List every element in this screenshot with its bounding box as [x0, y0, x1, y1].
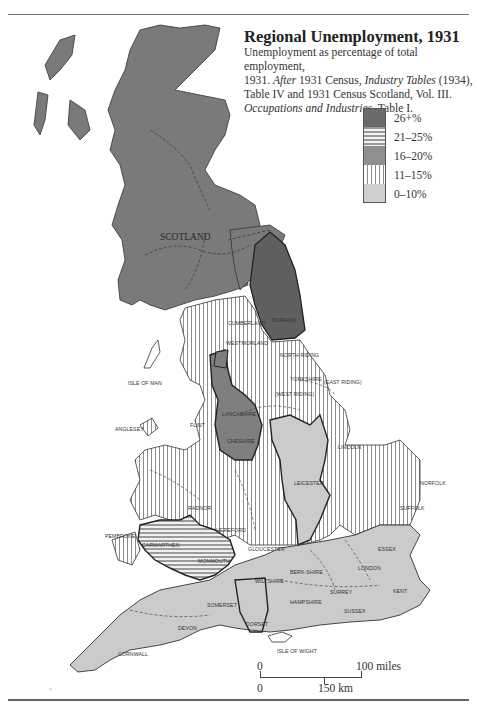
svg-text:CORNWALL: CORNWALL	[118, 651, 148, 657]
svg-text:LINCOLN: LINCOLN	[338, 444, 361, 450]
scilly-isles: ⁘	[48, 687, 53, 693]
svg-text:(WEST RIDING): (WEST RIDING)	[275, 391, 314, 397]
svg-text:NORFOLK: NORFOLK	[420, 480, 446, 486]
svg-text:SOMERSET: SOMERSET	[207, 602, 238, 608]
legend-swatch	[363, 108, 386, 127]
svg-text:HAMPSHIRE: HAMPSHIRE	[290, 599, 322, 605]
svg-text:WESTMORLAND: WESTMORLAND	[226, 340, 268, 346]
svg-text:FLINT: FLINT	[190, 422, 206, 428]
legend-swatch	[363, 184, 386, 203]
svg-text:SURREY: SURREY	[330, 589, 353, 595]
legend-swatch	[363, 127, 386, 146]
legend-swatch	[363, 165, 386, 184]
isle-of-man	[144, 340, 160, 368]
bottom-rule	[8, 699, 469, 701]
svg-text:HEREFORD: HEREFORD	[216, 527, 246, 533]
title-block: Regional Unemployment, 1931 Unemployment…	[244, 27, 474, 116]
legend-item-26plus: 26+%	[363, 108, 432, 127]
label-scotland: SCOTLAND	[160, 232, 211, 242]
svg-text:CARMARTHEN: CARMARTHEN	[142, 542, 180, 548]
label-durham: DURHAM	[272, 317, 295, 323]
legend-item-0-10: 0–10%	[363, 184, 432, 203]
map-title: Regional Unemployment, 1931	[244, 27, 474, 46]
svg-text:CUMBERLAND: CUMBERLAND	[228, 320, 265, 326]
legend: 26+% 21–25% 16–20% 11–15% 0–10%	[363, 108, 432, 203]
svg-text:SUFFOLK: SUFFOLK	[400, 505, 425, 511]
svg-text:LONDON: LONDON	[358, 565, 381, 571]
map-subtitle: Unemployment as percentage of total empl…	[244, 46, 474, 116]
svg-text:YORKSHIRE: YORKSHIRE	[290, 376, 322, 382]
svg-text:LEICESTER: LEICESTER	[294, 480, 324, 486]
svg-text:LANCASHIRE: LANCASHIRE	[222, 411, 257, 417]
svg-text:ISLE OF WIGHT: ISLE OF WIGHT	[277, 648, 318, 654]
legend-item-21-25: 21–25%	[363, 127, 432, 146]
legend-swatch	[363, 146, 386, 165]
svg-text:SUSSEX: SUSSEX	[344, 608, 366, 614]
svg-text:BERK-SHIRE: BERK-SHIRE	[290, 569, 323, 575]
svg-text:MONMOUTH: MONMOUTH	[198, 558, 230, 564]
svg-text:GLOUCESTER: GLOUCESTER	[248, 546, 285, 552]
svg-text:WILTSHIRE: WILTSHIRE	[255, 578, 284, 584]
svg-text:ISLE OF MAN: ISLE OF MAN	[128, 380, 162, 386]
svg-text:NORTH RIDING: NORTH RIDING	[280, 352, 319, 358]
svg-text:DORSET: DORSET	[246, 621, 269, 627]
svg-text:(EAST RIDING): (EAST RIDING)	[324, 379, 362, 385]
svg-text:PEMBROKE: PEMBROKE	[105, 533, 136, 539]
svg-text:RADNOR: RADNOR	[188, 505, 211, 511]
svg-text:DEVON: DEVON	[178, 625, 197, 631]
svg-text:ESSEX: ESSEX	[378, 546, 396, 552]
isle-of-wight	[268, 632, 292, 642]
svg-text:ANGLESEY: ANGLESEY	[115, 426, 144, 432]
svg-text:KENT: KENT	[393, 588, 408, 594]
legend-item-11-15: 11–15%	[363, 165, 432, 184]
legend-item-16-20: 16–20%	[363, 146, 432, 165]
svg-text:CHESHIRE: CHESHIRE	[227, 438, 255, 444]
scale-line	[260, 677, 362, 678]
scale-bar: 0 100 miles 0 150 km	[256, 660, 386, 700]
